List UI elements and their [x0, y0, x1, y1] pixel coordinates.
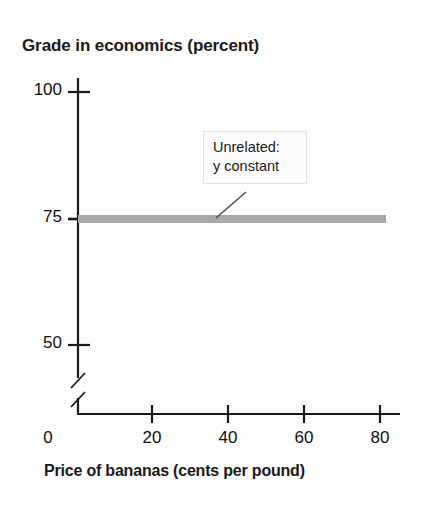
y-tick-label-50: 50: [18, 333, 62, 353]
chart-figure: Grade in economics (percent) 100 75 50 0…: [0, 0, 426, 508]
x-axis-title: Price of bananas (cents per pound): [44, 462, 305, 480]
annotation-callout: Unrelated: y constant: [203, 131, 307, 184]
y-tick-label-100: 100: [18, 80, 62, 100]
y-tick-label-75: 75: [18, 207, 62, 227]
annotation-leader-line: [216, 192, 246, 218]
annotation-line-2: y constant: [213, 157, 298, 176]
x-tick-label-20: 20: [132, 428, 172, 448]
x-tick-label-40: 40: [208, 428, 248, 448]
x-tick-label-0: 0: [28, 428, 68, 448]
x-tick-label-80: 80: [360, 428, 400, 448]
x-tick-label-60: 60: [284, 428, 324, 448]
annotation-line-1: Unrelated:: [213, 139, 280, 155]
